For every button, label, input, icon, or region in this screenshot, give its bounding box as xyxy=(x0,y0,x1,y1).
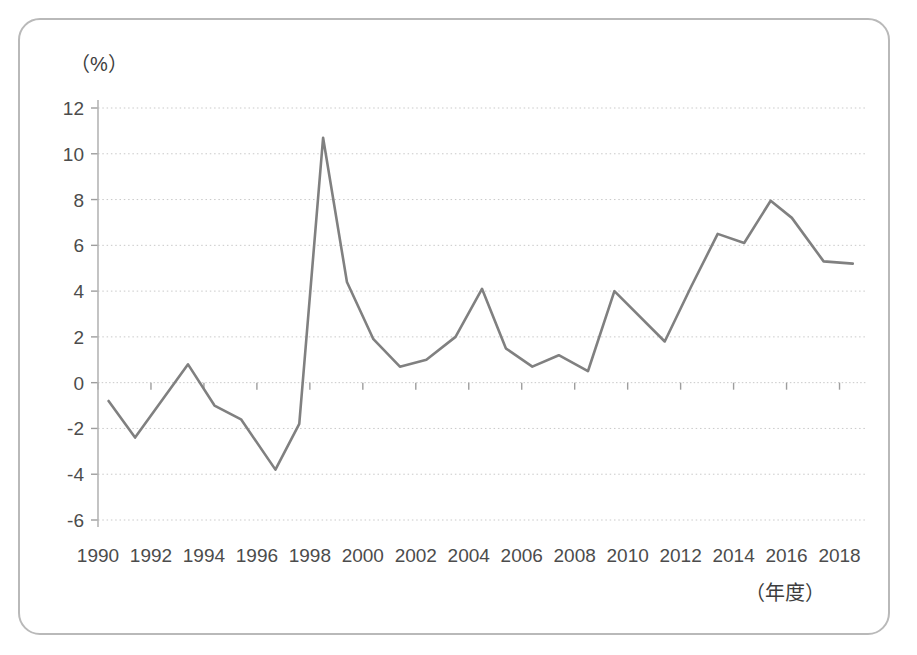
line-chart: 121086420-2-4-6 199019921994199619982000… xyxy=(0,0,917,655)
y-axis-ticks xyxy=(91,108,98,520)
y-tick-label: 12 xyxy=(63,98,84,119)
y-tick-label: 2 xyxy=(73,327,84,348)
x-tick-label: 2014 xyxy=(712,545,755,566)
y-tick-label: -2 xyxy=(67,418,84,439)
y-tick-label: -4 xyxy=(67,464,84,485)
x-tick-label: 1992 xyxy=(130,545,172,566)
y-axis-caption: （%） xyxy=(70,53,128,75)
y-tick-label: 0 xyxy=(73,373,84,394)
y-tick-label: -6 xyxy=(67,510,84,531)
x-tick-label: 2004 xyxy=(448,545,491,566)
data-series-line xyxy=(109,138,853,470)
x-tick-label: 2018 xyxy=(818,545,860,566)
x-axis-tick-labels: 1990199219941996199820002002200420062008… xyxy=(77,545,861,566)
x-tick-label: 2016 xyxy=(765,545,807,566)
x-tick-label: 2010 xyxy=(607,545,649,566)
x-tick-label: 2006 xyxy=(501,545,543,566)
x-axis-caption: （年度） xyxy=(745,582,825,604)
x-tick-label: 2002 xyxy=(395,545,437,566)
x-tick-label: 1994 xyxy=(183,545,226,566)
x-axis-ticks xyxy=(98,383,840,390)
grid-lines xyxy=(98,108,866,520)
y-tick-label: 10 xyxy=(63,144,84,165)
x-tick-label: 1990 xyxy=(77,545,119,566)
figure-root: 121086420-2-4-6 199019921994199619982000… xyxy=(0,0,917,655)
x-tick-label: 2012 xyxy=(659,545,701,566)
x-tick-label: 1998 xyxy=(289,545,331,566)
x-tick-label: 2000 xyxy=(342,545,384,566)
y-tick-label: 4 xyxy=(73,281,84,302)
x-tick-label: 1996 xyxy=(236,545,278,566)
y-tick-label: 6 xyxy=(73,235,84,256)
y-axis-tick-labels: 121086420-2-4-6 xyxy=(63,98,85,531)
x-tick-label: 2008 xyxy=(554,545,596,566)
y-tick-label: 8 xyxy=(73,190,84,211)
